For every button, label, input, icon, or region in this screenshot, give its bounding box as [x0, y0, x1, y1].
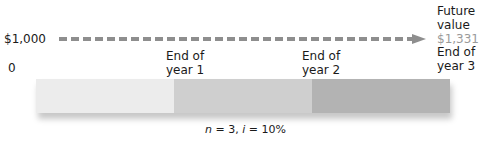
timeline-bar [36, 79, 450, 113]
timeline-segment-year-2 [174, 79, 312, 113]
timeline-segment-year-3 [312, 79, 450, 113]
arrow-head-icon [412, 34, 426, 44]
tick-label-year-1: End of year 1 [166, 49, 204, 77]
timeline-segment-year-1 [36, 79, 174, 113]
tick-label-year-2: End of year 2 [302, 49, 340, 77]
compounding-arrow-line [59, 37, 415, 41]
parameters-caption: n = 3, i = 10% [0, 123, 491, 136]
future-value-heading: Future value [437, 4, 475, 32]
period-zero-label: 0 [8, 61, 16, 75]
tick-label-year-3: End of year 3 [437, 45, 475, 73]
present-value-label: $1,000 [4, 32, 46, 46]
future-value-amount: $1,331 [437, 32, 479, 46]
